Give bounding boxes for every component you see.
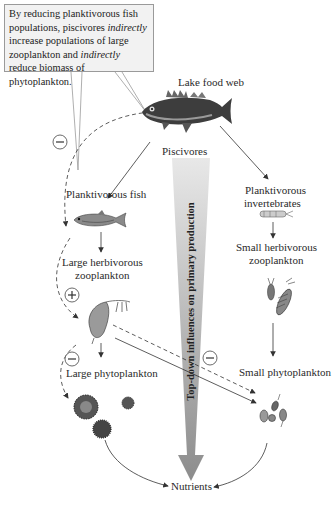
minus-sign-icon: [202, 350, 218, 366]
chaoborus-larva-icon: [256, 208, 294, 220]
label-planktivorous-fish: Planktivorous fish: [66, 188, 146, 201]
large-phytoplankton-icon: [70, 394, 140, 440]
label-small-herbivorous-zooplankton-2: zooplankton: [249, 254, 303, 267]
plus-sign-icon: [64, 287, 80, 303]
label-large-herbivorous-zooplankton-2: zooplankton: [75, 269, 129, 282]
minus-sign-icon: [52, 134, 68, 150]
minus-sign-icon: [64, 351, 80, 367]
callout-text-2: indirectly: [107, 22, 146, 33]
callout-box: By reducing planktivorous fish populatio…: [4, 4, 154, 72]
top-down-arrow-label: Top-down influences on primary productio…: [185, 187, 196, 417]
label-piscivores: Piscivores: [162, 145, 207, 158]
small-phytoplankton-icon: [258, 392, 292, 428]
planktivorous-fish-icon: [72, 210, 128, 230]
label-small-herbivorous-zooplankton-1: Small herbivorous: [236, 241, 317, 254]
diagram-title: Lake food web: [178, 76, 244, 89]
label-planktivorous-invertebrates-1: Planktivorous: [245, 184, 306, 197]
daphnia-zooplankton-icon: [80, 298, 132, 344]
copepod-zooplankton-icon: [262, 276, 296, 320]
callout-text-4: indirectly: [81, 49, 120, 60]
label-large-herbivorous-zooplankton-1: Large herbivorous: [62, 256, 143, 269]
label-nutrients: Nutrients: [171, 480, 212, 493]
bass-fish-icon: [138, 90, 236, 140]
label-small-phytoplankton: Small phytoplankton: [239, 366, 331, 379]
label-large-phytoplankton: Large phytoplankton: [66, 367, 158, 380]
